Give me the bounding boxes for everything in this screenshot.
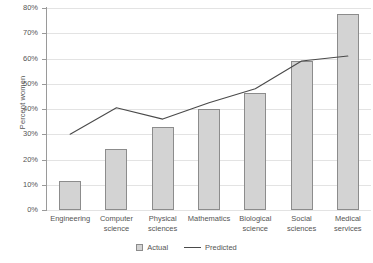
gridline [47, 33, 371, 34]
bar [59, 181, 81, 210]
chart-container: Percent women 0%10%20%30%40%50%60%70%80%… [0, 0, 373, 263]
y-axis-tick [42, 210, 47, 211]
y-axis-tick-label: 40% [0, 104, 38, 113]
x-axis-label: Medicalservices [325, 214, 371, 233]
bar [105, 149, 127, 210]
x-axis-label: Physicalsciences [140, 214, 186, 233]
y-axis-tick [42, 84, 47, 85]
y-axis-tick-label: 60% [0, 54, 38, 63]
legend-item-actual: Actual [136, 243, 168, 252]
bar-swatch-icon [136, 244, 143, 251]
chart-legend: Actual Predicted [0, 243, 373, 252]
y-axis-tick-label: 50% [0, 79, 38, 88]
y-axis-tick [42, 160, 47, 161]
x-axis-label: Engineering [47, 214, 93, 224]
y-axis-tick-label: 70% [0, 28, 38, 37]
x-axis-label: Mathematics [186, 214, 232, 224]
y-axis-tick-label: 80% [0, 3, 38, 12]
x-axis-label: Socialsciences [278, 214, 324, 233]
x-axis-label: Computerscience [93, 214, 139, 233]
legend-label-actual: Actual [147, 243, 168, 252]
bar [198, 109, 220, 210]
legend-label-predicted: Predicted [205, 243, 237, 252]
x-axis-label: Biologicalscience [232, 214, 278, 233]
gridline [47, 84, 371, 85]
gridline [47, 210, 371, 211]
bar [337, 14, 359, 210]
y-axis-tick [42, 33, 47, 34]
y-axis-tick [42, 134, 47, 135]
y-axis-tick [42, 109, 47, 110]
y-axis-tick-label: 10% [0, 180, 38, 189]
line-swatch-icon [184, 247, 201, 248]
y-axis-tick [42, 185, 47, 186]
bar [244, 93, 266, 210]
y-axis-tick [42, 8, 47, 9]
bar [152, 127, 174, 210]
y-axis-tick [42, 59, 47, 60]
gridline [47, 8, 371, 9]
y-axis-tick-label: 20% [0, 155, 38, 164]
legend-item-predicted: Predicted [184, 243, 237, 252]
gridline [47, 59, 371, 60]
y-axis-tick-label: 0% [0, 205, 38, 214]
bar [291, 61, 313, 210]
y-axis-tick-label: 30% [0, 129, 38, 138]
